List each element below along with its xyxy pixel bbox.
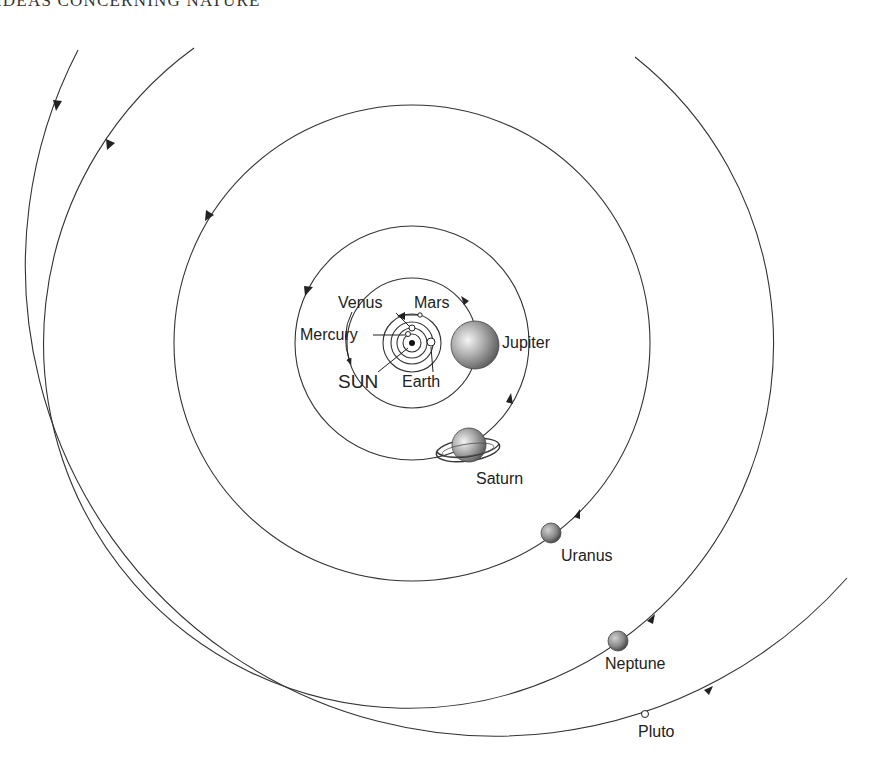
venus-label: Venus xyxy=(338,294,382,311)
sun-label: SUN xyxy=(338,371,378,392)
sun-icon xyxy=(409,340,415,346)
orbit-direction-arrows xyxy=(53,100,713,695)
pluto-planet xyxy=(642,711,649,718)
pluto-arrow-icon xyxy=(53,100,62,111)
uranus-arrow-icon xyxy=(205,210,214,221)
jupiter-arrow-icon xyxy=(461,296,469,305)
uranus-label: Uranus xyxy=(561,547,613,564)
neptune-planet xyxy=(608,631,628,651)
jupiter-label: Jupiter xyxy=(502,334,551,351)
earth-planet xyxy=(427,338,435,346)
mars-label: Mars xyxy=(414,294,450,311)
neptune-label: Neptune xyxy=(605,655,666,672)
pluto-label: Pluto xyxy=(638,723,675,740)
venus-planet xyxy=(409,325,415,331)
pluto-arrow-right-icon xyxy=(704,686,713,695)
saturn-arrow-icon xyxy=(304,286,313,296)
mercury-label: Mercury xyxy=(300,326,358,343)
saturn-planet xyxy=(435,428,501,465)
neptune-arrow-icon xyxy=(106,139,115,150)
mars-planet xyxy=(418,313,422,317)
uranus-planet xyxy=(541,523,561,543)
solar-system-diagram: Venus Mars Mercury SUN Earth Jupiter Sat… xyxy=(0,0,887,766)
mars-arrow-icon xyxy=(397,312,405,320)
earth-label: Earth xyxy=(402,373,440,390)
uranus-arrow-right-icon xyxy=(574,509,580,519)
mercury-planet xyxy=(406,332,411,337)
pluto-orbit xyxy=(25,50,847,736)
saturn-label: Saturn xyxy=(476,470,523,487)
jupiter-planet xyxy=(451,321,499,369)
saturn-arrow-right-icon xyxy=(506,393,513,404)
